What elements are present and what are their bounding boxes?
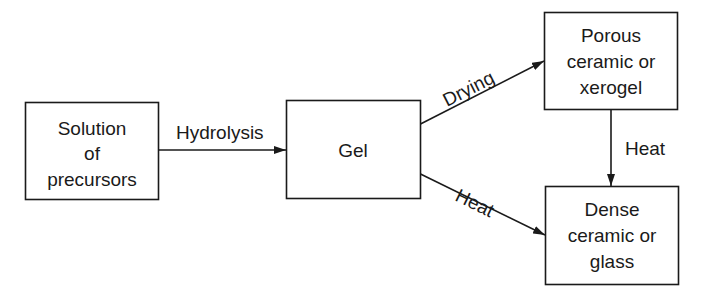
node-label-line: Porous xyxy=(581,25,641,46)
node-solution-of-precursors: Solution of precursors xyxy=(26,103,159,200)
edge-heat-gel-to-dense: Heat xyxy=(421,174,546,235)
edge-label: Hydrolysis xyxy=(176,122,264,143)
node-label-line: ceramic or xyxy=(568,225,657,246)
edge-label: Heat xyxy=(452,185,498,222)
sol-gel-process-diagram: Solution of precursors Gel Porous cerami… xyxy=(0,0,702,299)
edge-label: Drying xyxy=(439,67,497,111)
node-label-line: Dense xyxy=(585,199,640,220)
node-gel: Gel xyxy=(287,101,421,199)
edge-heat-porous-to-dense: Heat xyxy=(611,110,666,186)
node-porous-ceramic-or-xerogel: Porous ceramic or xerogel xyxy=(545,13,678,110)
edge-label: Heat xyxy=(625,138,666,159)
node-label-line: glass xyxy=(590,251,634,272)
node-dense-ceramic-or-glass: Dense ceramic or glass xyxy=(546,187,679,285)
node-label-line: xerogel xyxy=(580,77,642,98)
node-label-line: Gel xyxy=(338,140,368,161)
edge-hydrolysis: Hydrolysis xyxy=(159,122,287,150)
node-label-line: ceramic or xyxy=(567,51,656,72)
node-label-line: of xyxy=(84,143,101,164)
node-label-line: Solution xyxy=(58,118,127,139)
node-label-line: precursors xyxy=(47,169,137,190)
edge-drying: Drying xyxy=(421,61,545,124)
